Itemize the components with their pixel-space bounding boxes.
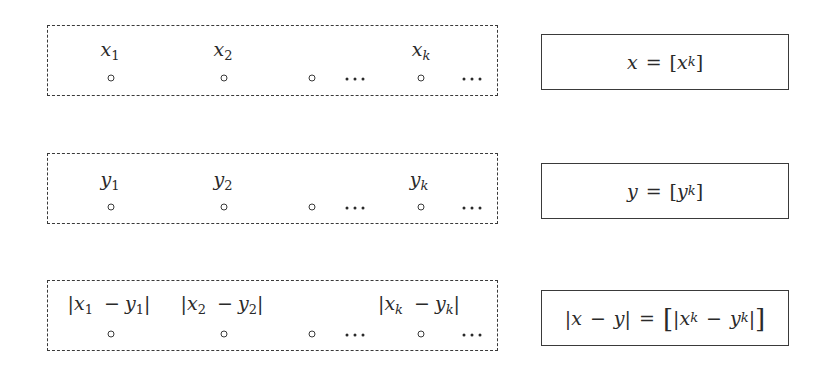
y1-label: y1 [100,170,119,189]
ellipsis-icon [346,207,365,210]
xk-label: xk [412,40,431,59]
y2-label: y2 [213,170,232,189]
y2-node-icon [221,204,228,211]
y-node-icon [309,204,316,211]
abs-diff-k-label: |xk −yk| [378,294,460,313]
ellipsis-icon [463,207,482,210]
ellipsis-icon [463,334,482,337]
ellipsis-icon [346,78,365,81]
abs-diff-sequence-dashed-box [47,280,498,351]
abs-diff-definition-box: |x − y| = [|xk − yk|] [541,290,789,346]
x2-node-icon [221,75,228,82]
ellipsis-icon [346,334,365,337]
x-node-icon [309,75,316,82]
abs-diff-1-node-icon [108,331,115,338]
abs-diff-2-label: |x2 −y2| [181,294,264,313]
x1-node-icon [108,75,115,82]
abs-diff-k-node-icon [418,331,425,338]
y1-node-icon [108,204,115,211]
xk-node-icon [418,75,425,82]
y-definition-box: y = [yk] [541,163,789,219]
x2-label: x2 [214,40,233,59]
yk-label: yk [410,170,429,189]
x1-label: x1 [101,40,120,59]
abs-diff-1-label: |x1 −y1| [68,294,151,313]
yk-node-icon [418,204,425,211]
abs-diff-2-node-icon [221,331,228,338]
ellipsis-icon [463,78,482,81]
abs-diff-node-icon [309,331,316,338]
x-definition-box: x = [xk] [541,34,789,90]
